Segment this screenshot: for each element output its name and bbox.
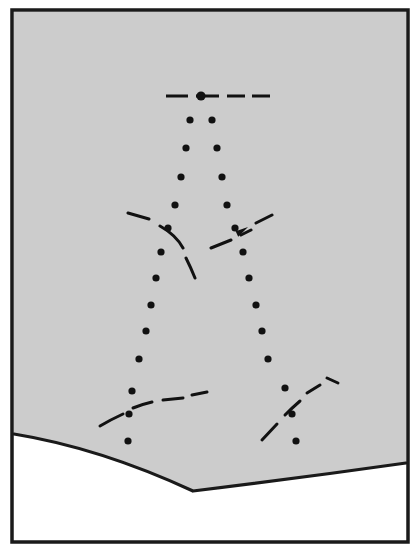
right-dot-column-dot-4 xyxy=(223,201,230,208)
left-dot-column-dot-3 xyxy=(177,173,184,180)
right-dot-column-dot-11 xyxy=(281,384,288,391)
right-dot-column-dot-1 xyxy=(208,116,215,123)
left-dot-column-dot-1 xyxy=(186,116,193,123)
right-dot-column-dot-8 xyxy=(252,301,259,308)
right-dot-column-dot-3 xyxy=(218,173,225,180)
right-dot-column-dot-7 xyxy=(245,274,252,281)
right-dot-column-dot-10 xyxy=(264,355,271,362)
figure-root xyxy=(0,0,418,554)
left-dot-column-dot-7 xyxy=(152,274,159,281)
right-dot-column-dot-13 xyxy=(292,437,299,444)
left-dot-column-dot-12 xyxy=(125,410,132,417)
shaded-panel-group xyxy=(14,12,406,491)
left-dot-column-dot-10 xyxy=(135,355,142,362)
right-dot-column-dot-5 xyxy=(231,224,238,231)
center-hub-dot xyxy=(196,91,205,100)
right-dot-column-dot-12 xyxy=(288,410,295,417)
right-dot-column-dot-6 xyxy=(239,248,246,255)
left-dot-column-dot-9 xyxy=(142,327,149,334)
shaded-panel xyxy=(14,12,406,491)
left-dot-column-dot-2 xyxy=(182,144,189,151)
left-dot-column-dot-13 xyxy=(124,437,131,444)
right-dot-column-dot-9 xyxy=(258,327,265,334)
left-dot-column-dot-5 xyxy=(164,224,171,231)
right-dot-column-dot-2 xyxy=(213,144,220,151)
left-dot-column-dot-6 xyxy=(157,248,164,255)
technical-figure xyxy=(0,0,418,554)
left-dot-column-dot-8 xyxy=(147,301,154,308)
left-dot-column-dot-4 xyxy=(171,201,178,208)
left-dot-column-dot-11 xyxy=(128,387,135,394)
